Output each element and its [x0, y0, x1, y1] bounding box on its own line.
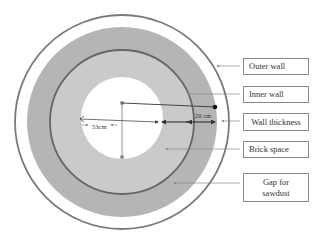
- wall-thickness-dimension: 20 cm: [195, 112, 211, 119]
- label-gap-for-sawdust: Gap for sawdust: [243, 173, 309, 202]
- wall-point-dot: [213, 105, 218, 110]
- label-wall-thickness: Wall thickness: [243, 113, 309, 131]
- inner-radius-label: 53cm: [92, 123, 106, 130]
- label-outer-wall: Outer wall: [243, 58, 309, 75]
- label-inner-wall: Inner wall: [243, 86, 309, 103]
- label-brick-space: Brick space: [243, 141, 309, 158]
